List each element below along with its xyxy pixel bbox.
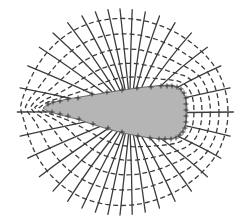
- field-diagram: [0, 0, 238, 224]
- field-line: [185, 88, 230, 98]
- charged-conductor: [43, 85, 187, 139]
